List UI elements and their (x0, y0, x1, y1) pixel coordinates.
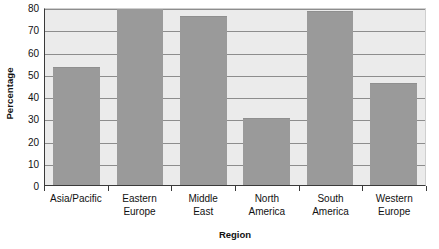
bar[interactable] (243, 118, 290, 185)
bar[interactable] (370, 83, 417, 185)
bar[interactable] (117, 8, 164, 185)
y-axis-tick-label: 80 (28, 3, 39, 14)
bar-slot (45, 9, 108, 185)
bars-container (45, 9, 425, 185)
plot-area (44, 8, 426, 186)
x-axis-tick-label: WesternEurope (362, 193, 426, 229)
bar-chart: Percentage 01020304050607080 Asia/Pacifi… (0, 0, 439, 249)
x-axis-tick (362, 186, 363, 191)
x-axis-tick (235, 186, 236, 191)
x-axis-tick-labels: Asia/PacificEasternEuropeMiddleEastNorth… (44, 193, 426, 229)
bar-slot (235, 9, 298, 185)
x-axis-tick (108, 186, 109, 191)
x-axis-tick (299, 186, 300, 191)
bar[interactable] (53, 67, 100, 185)
x-axis-tick (426, 186, 427, 191)
x-axis-tick-label: Asia/Pacific (44, 193, 108, 229)
y-axis-tick-label: 50 (28, 69, 39, 80)
x-axis-tick (171, 186, 172, 191)
y-axis-tick-label: 40 (28, 92, 39, 103)
y-axis-tick-label: 0 (33, 181, 39, 192)
x-axis-tick-label: EasternEurope (108, 193, 172, 229)
y-axis-tick-label: 10 (28, 158, 39, 169)
bar-slot (298, 9, 361, 185)
bar[interactable] (180, 16, 227, 185)
y-axis-tick-label: 20 (28, 136, 39, 147)
x-axis-ticks (44, 186, 426, 191)
bar-slot (172, 9, 235, 185)
y-axis-title: Percentage (0, 0, 18, 186)
bar[interactable] (307, 11, 354, 185)
y-axis-tick-label: 60 (28, 47, 39, 58)
y-axis-title-label: Percentage (4, 67, 15, 119)
x-axis-tick-label: NorthAmerica (235, 193, 299, 229)
bar-slot (108, 9, 171, 185)
x-axis-tick (44, 186, 45, 191)
y-axis-tick-label: 70 (28, 25, 39, 36)
bar-slot (362, 9, 425, 185)
x-axis-tick-label: MiddleEast (171, 193, 235, 229)
x-axis-title: Region (44, 229, 426, 240)
x-axis-tick-label: SouthAmerica (299, 193, 363, 229)
y-axis-tick-label: 30 (28, 114, 39, 125)
y-axis-tick-labels: 01020304050607080 (18, 8, 42, 186)
